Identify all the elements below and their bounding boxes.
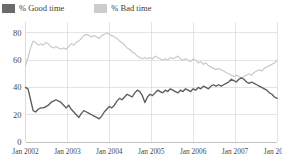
svg-text:Jan 2002: Jan 2002 (12, 147, 39, 156)
svg-text:Jan 2007: Jan 2007 (222, 147, 249, 156)
chart-container: % Good time % Bad time 020406080 Jan 200… (0, 0, 282, 159)
svg-text:Jan 2006: Jan 2006 (180, 147, 207, 156)
legend-swatch-bad-time (94, 4, 107, 13)
svg-text:Jan 2008: Jan 2008 (264, 147, 282, 156)
svg-text:Jan 2003: Jan 2003 (54, 147, 81, 156)
legend-label-bad-time: % Bad time (111, 4, 151, 13)
x-axis-tick-labels: Jan 2002Jan 2003Jan 2004Jan 2005Jan 2006… (12, 147, 282, 156)
legend-item-good-time: % Good time (2, 0, 64, 16)
plot-area: 020406080 Jan 2002Jan 2003Jan 2004Jan 20… (0, 16, 282, 159)
svg-text:60: 60 (13, 55, 22, 65)
y-axis-tick-labels: 020406080 (13, 28, 22, 147)
svg-text:0: 0 (17, 137, 21, 147)
svg-text:Jan 2004: Jan 2004 (96, 147, 123, 156)
svg-text:Jan 2005: Jan 2005 (138, 147, 165, 156)
gridlines (26, 22, 278, 142)
legend-item-bad-time: % Bad time (94, 0, 151, 16)
legend-swatch-good-time (2, 4, 15, 13)
line-chart-svg: 020406080 Jan 2002Jan 2003Jan 2004Jan 20… (0, 16, 282, 159)
legend-label-good-time: % Good time (19, 4, 64, 13)
chart-legend: % Good time % Bad time (0, 0, 282, 16)
svg-text:20: 20 (13, 110, 22, 120)
svg-text:80: 80 (13, 28, 22, 38)
svg-text:40: 40 (13, 82, 22, 92)
